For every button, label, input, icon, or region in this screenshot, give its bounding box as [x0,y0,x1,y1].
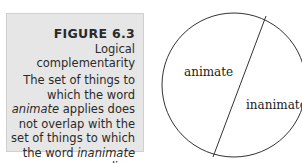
region-label-inanimate: inanimate [246,98,302,112]
region-label-animate: animate [184,65,233,79]
set-diagram: animate inanimate [0,0,302,163]
universe-circle [162,13,302,157]
partition-line [213,16,266,157]
